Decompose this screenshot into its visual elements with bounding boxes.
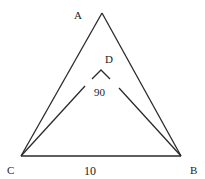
segment-cd (21, 86, 85, 156)
segment-bd (119, 88, 181, 156)
side-length-label: 10 (84, 164, 96, 178)
triangle-diagram: A D C B 90 10 (0, 0, 205, 179)
angle-value-label: 90 (94, 86, 106, 98)
label-d: D (105, 53, 113, 65)
side-ab (102, 13, 181, 156)
side-ac (21, 13, 102, 156)
angle-mark-d (92, 70, 110, 79)
diagram-canvas: A D C B 90 10 (0, 0, 205, 179)
label-c: C (7, 164, 14, 176)
label-a: A (74, 9, 82, 21)
label-b: B (190, 164, 197, 176)
